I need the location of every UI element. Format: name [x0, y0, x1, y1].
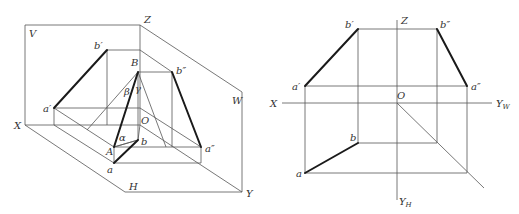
projection-diagrams: V Z W X H Y O b′ a′ B b″ β γ α b A a a″: [0, 0, 519, 214]
line-aprime-bprime: [54, 50, 107, 108]
label-Z: Z: [143, 14, 152, 25]
label-O: O: [141, 115, 149, 126]
line-adprime-bdprime: [437, 29, 467, 86]
label-a: a: [296, 168, 302, 179]
label-A: A: [105, 146, 113, 157]
label-Z: Z: [400, 15, 409, 26]
w-plane-outline: [140, 25, 242, 192]
label-X: X: [13, 120, 22, 131]
oy-axis: [140, 125, 242, 192]
label-beta: β: [123, 86, 130, 97]
label-bprime: b′: [345, 19, 354, 30]
label-adprime: a″: [205, 143, 215, 154]
beta-ref-line: [87, 72, 138, 130]
label-YH-sub: H: [405, 201, 413, 209]
orthographic-diagram: Z b′ b″ a′ a″ X O YW b a YH: [269, 15, 511, 209]
label-W: W: [232, 95, 243, 106]
label-YW: YW: [496, 98, 511, 111]
label-bdprime: b″: [176, 65, 186, 76]
label-YH: YH: [399, 196, 413, 209]
aprime-to-A: [54, 108, 114, 147]
label-b: b: [350, 132, 356, 143]
O-to-adprime: [140, 108, 201, 147]
bprime-to-b-box: [140, 50, 172, 72]
label-alpha: α: [119, 132, 126, 143]
label-aprime: a′: [292, 81, 301, 92]
label-bdprime: b″: [440, 19, 450, 30]
label-Y: Y: [246, 188, 254, 199]
label-adprime: a″: [471, 81, 481, 92]
45-degree-line: [397, 103, 484, 188]
label-H: H: [128, 181, 138, 192]
label-a: a: [107, 164, 113, 175]
axonometric-diagram: V Z W X H Y O b′ a′ B b″ β γ α b A a a″: [13, 14, 254, 199]
line-aprime-bprime: [305, 29, 358, 86]
label-bprime: b′: [94, 40, 103, 51]
label-B: B: [130, 57, 138, 68]
line-ab: [305, 143, 358, 173]
aprime-bottom-diag: [54, 125, 114, 163]
label-gamma: γ: [135, 83, 141, 94]
label-V: V: [29, 28, 38, 39]
label-aprime: a′: [43, 103, 52, 114]
label-YW-sub: W: [503, 103, 511, 111]
label-O: O: [397, 90, 405, 101]
label-b: b: [141, 136, 147, 147]
line-adprime-bdprime: [172, 72, 201, 147]
label-X: X: [269, 98, 278, 109]
